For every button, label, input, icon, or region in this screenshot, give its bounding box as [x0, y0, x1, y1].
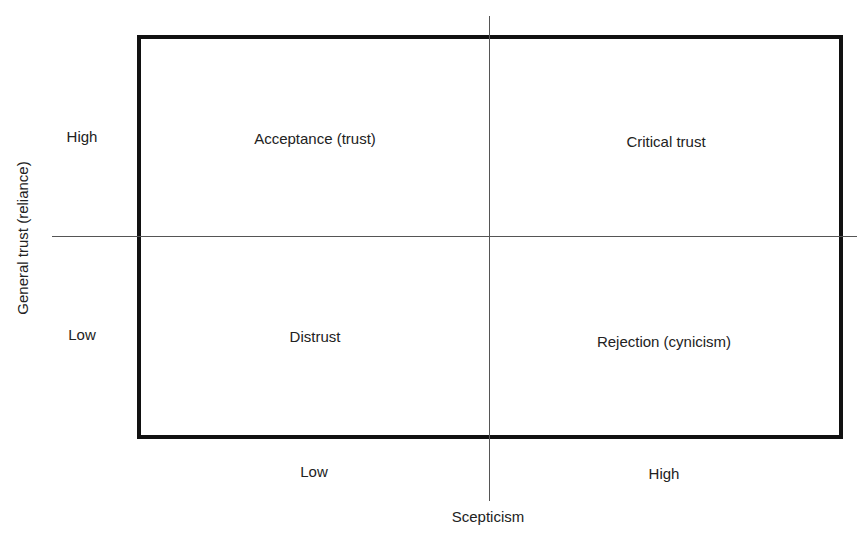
x-axis-label: Scepticism: [452, 508, 525, 525]
x-axis-high-label: High: [649, 465, 680, 482]
quadrant-bottom-left: Distrust: [290, 328, 341, 345]
quadrant-top-left: Acceptance (trust): [254, 130, 376, 147]
quadrant-top-right: Critical trust: [626, 133, 705, 150]
quadrant-bottom-right: Rejection (cynicism): [597, 333, 731, 350]
vertical-axis-line: [489, 16, 490, 501]
y-axis-high-label: High: [67, 128, 98, 145]
y-axis-low-label: Low: [68, 326, 96, 343]
y-axis-label: General trust (reliance): [14, 161, 31, 314]
horizontal-axis-line: [52, 236, 857, 237]
x-axis-low-label: Low: [300, 463, 328, 480]
matrix-border: [137, 35, 843, 439]
